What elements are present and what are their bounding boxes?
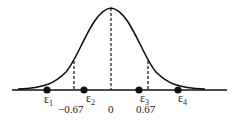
label-e4: ε4 [178,91,187,107]
normal-curve-diagram: ε1 ε2 ε3 ε4 −0.67 0 0.67 [0,0,235,120]
tick-neg-067: −0.67 [58,103,84,115]
label-e1: ε1 [44,92,53,108]
tick-pos-067: 0.67 [136,103,156,115]
label-e2: ε2 [86,91,95,107]
tick-zero: 0 [108,103,114,115]
